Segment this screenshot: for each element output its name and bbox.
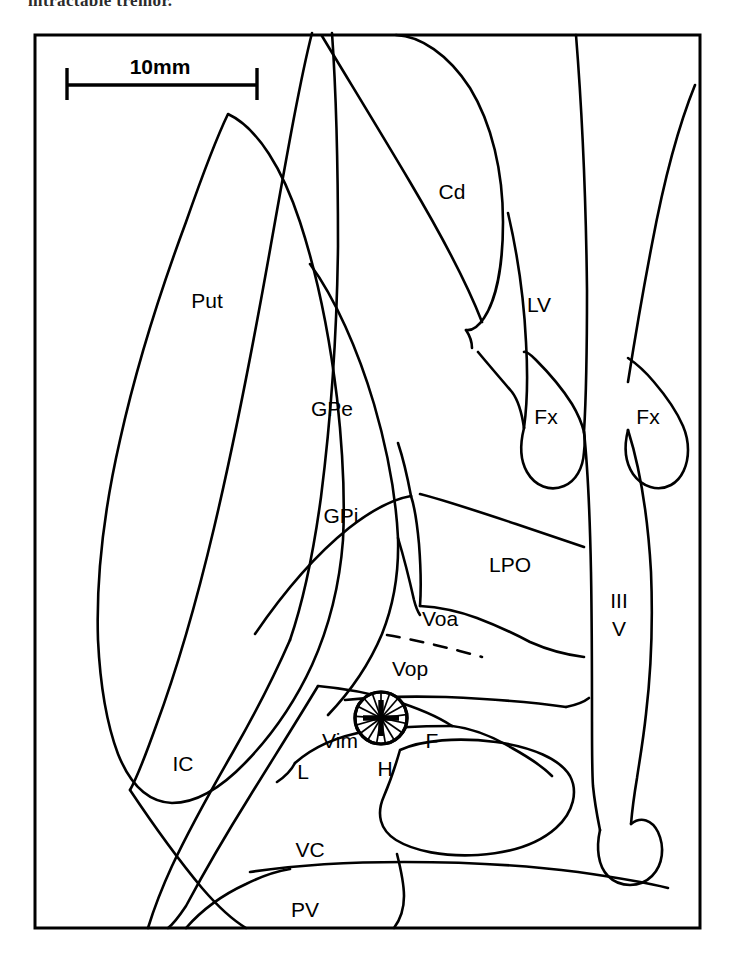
putamen-outline	[98, 114, 344, 803]
label-fx-left: Fx	[534, 405, 558, 428]
fornix-right-upper-limb	[628, 85, 695, 382]
label-gpe: GPe	[311, 397, 353, 420]
lateral-ventricle-medial-wall	[576, 35, 587, 432]
internal-capsule-bundle-line	[168, 686, 318, 928]
label-third-ventricle-iii: III	[610, 589, 628, 612]
third-ventricle-left-wall	[584, 432, 600, 830]
internal-capsule-medial-edge	[290, 33, 338, 640]
label-lpo: LPO	[489, 553, 531, 576]
label-voa: Voa	[422, 607, 459, 630]
label-vim: Vim	[322, 729, 358, 752]
vop-medial-border	[566, 698, 589, 707]
gpe-gpi-junction	[398, 443, 411, 496]
lpo-superior-border	[420, 494, 584, 547]
label-pv: PV	[291, 898, 319, 921]
label-lv: LV	[527, 293, 551, 316]
vc-stem	[394, 854, 404, 928]
internal-capsule-inferior-band-outer	[130, 790, 246, 928]
scanned-page: intractable tremor. 10mm	[0, 0, 735, 976]
label-gpi: GPi	[323, 504, 358, 527]
internal-capsule-inferior-band-inner	[148, 640, 290, 928]
label-h: H	[377, 757, 392, 780]
label-f: F	[426, 729, 439, 752]
label-vc: VC	[295, 838, 324, 861]
label-fx-right: Fx	[636, 405, 660, 428]
voa-anterior-border	[398, 538, 420, 615]
vc-inferior-border	[250, 862, 668, 888]
thalamic-atlas-figure: 10mm	[0, 0, 735, 976]
lateral-ventricle-floor	[478, 352, 524, 428]
third-ventricle-right-wall	[628, 430, 652, 824]
lateral-ventricle-lateral-wall	[508, 213, 527, 428]
label-third-ventricle-v: V	[612, 617, 626, 640]
voa-vop-divider	[387, 635, 482, 657]
figure-frame	[35, 35, 700, 928]
label-cd: Cd	[439, 180, 466, 203]
label-vop: Vop	[392, 657, 428, 680]
vc-superior-lobe	[380, 740, 574, 856]
label-put: Put	[191, 289, 223, 312]
caudate-lv-junction	[466, 330, 472, 348]
label-l: L	[297, 760, 309, 783]
label-ic: IC	[173, 752, 194, 775]
internal-capsule-lateral-edge	[130, 33, 312, 790]
l-field-border	[277, 763, 295, 782]
scale-bar-label: 10mm	[130, 55, 191, 78]
